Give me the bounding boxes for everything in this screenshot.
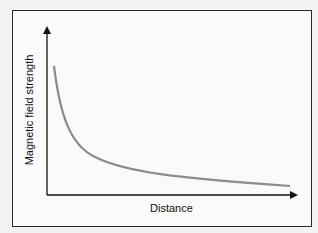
y-axis-label: Magnetic field strength [23, 55, 35, 166]
x-axis-label: Distance [150, 202, 193, 214]
chart-plot [0, 0, 318, 233]
field-strength-curve [54, 66, 290, 186]
